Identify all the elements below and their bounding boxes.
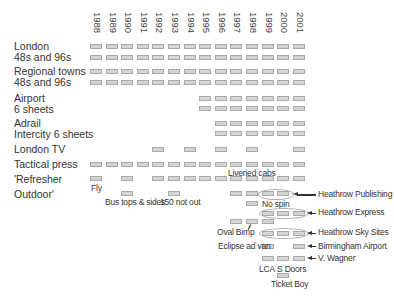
bar-v-wagner: [277, 256, 289, 261]
timeline-bar: [277, 121, 289, 126]
timeline-bar: [293, 96, 305, 101]
year-label: 1989: [106, 12, 120, 46]
row-label-airport-sheets: 6 sheets: [14, 104, 54, 115]
ellipse-heathrow-sky-sites: [259, 228, 309, 239]
bar-oval-bimp: [262, 219, 274, 224]
row-label-refresher: 'Refresher: [14, 174, 62, 185]
timeline-bar: [215, 162, 227, 167]
timeline-bar: [199, 176, 211, 181]
timeline-bar: [184, 147, 196, 152]
year-label: 1988: [90, 12, 104, 46]
row-label-adrail-sheets: Intercity 6 sheets: [14, 129, 93, 140]
annotation-bus-tops: Bus tops & sides: [105, 197, 165, 207]
timeline-bar: [168, 191, 180, 196]
bar-oval-bimp: [230, 219, 242, 224]
timeline-bar: [215, 80, 227, 85]
row-label-regional-sizes: 48s and 96s: [14, 77, 71, 88]
annotation-heathrow-publishing: Heathrow Publishing: [318, 189, 392, 199]
timeline-bar: [277, 131, 289, 136]
timeline-bar: [277, 96, 289, 101]
timeline-bar: [215, 55, 227, 60]
timeline-bar: [277, 176, 289, 181]
row-label-outdoor: Outdoor': [14, 189, 54, 200]
timeline-bar: [184, 162, 196, 167]
timeline-bar: [121, 191, 133, 196]
arrow-heathrow-sky-sites-icon: [311, 233, 316, 234]
timeline-bar: [90, 44, 102, 49]
timeline-bar: [121, 44, 133, 49]
annotation-lca: LCA: [259, 264, 275, 274]
timeline-bar: [152, 80, 164, 85]
timeline-bar: [184, 176, 196, 181]
arrow-birmingham-airport-icon: [311, 246, 316, 247]
timeline-bar: [152, 162, 164, 167]
annotation-heathrow-express: Heathrow Express: [318, 207, 384, 217]
timeline-bar: [293, 80, 305, 85]
timeline-bar: [215, 44, 227, 49]
timeline-bar: [106, 69, 118, 74]
bar-birmingham-airport: [293, 244, 305, 249]
timeline-bar: [293, 147, 305, 152]
timeline-bar: [293, 55, 305, 60]
timeline-bar: [246, 106, 258, 111]
year-label: 2000: [277, 12, 291, 46]
timeline-bar: [246, 131, 258, 136]
bar-no-spin: [246, 201, 258, 206]
row-label-london-tv: London TV: [14, 144, 65, 155]
timeline-bar: [121, 80, 133, 85]
timeline-bar: [137, 55, 149, 60]
timeline-bar: [262, 106, 274, 111]
timeline-bar: [262, 162, 274, 167]
timeline-bar: [184, 80, 196, 85]
timeline-bar: [277, 69, 289, 74]
timeline-bar: [246, 191, 258, 196]
timeline-bar: [246, 80, 258, 85]
timeline-bar: [121, 162, 133, 167]
bar-v-wagner: [293, 256, 305, 261]
timeline-bar: [246, 96, 258, 101]
annotation-heathrow-sky-sites: Heathrow Sky Sites: [318, 227, 389, 237]
timeline-bar: [277, 106, 289, 111]
timeline-bar: [230, 121, 242, 126]
timeline-bar: [90, 55, 102, 60]
timeline-bar: [262, 96, 274, 101]
timeline-bar: [106, 162, 118, 167]
timeline-bar: [293, 69, 305, 74]
timeline-bar: [152, 44, 164, 49]
year-label: 1998: [246, 12, 260, 46]
timeline-bar: [215, 69, 227, 74]
timeline-bar: [230, 44, 242, 49]
row-label-london-sizes: 48s and 96s: [14, 52, 71, 63]
ellipse-heathrow-express: [259, 208, 309, 219]
timeline-bar: [293, 121, 305, 126]
timeline-bar: [230, 69, 242, 74]
row-label-tactical: Tactical press: [14, 159, 78, 170]
arrow-heathrow-express-icon: [311, 213, 316, 214]
timeline-bar: [293, 106, 305, 111]
timeline-bar: [184, 44, 196, 49]
timeline-bar: [230, 96, 242, 101]
timeline-bar: [215, 96, 227, 101]
timeline-bar: [230, 162, 242, 167]
timeline-bar: [137, 69, 149, 74]
timeline-bar: [215, 176, 227, 181]
annotation-fly: Fly: [91, 183, 102, 193]
timeline-bar: [262, 55, 274, 60]
timeline-bar: [168, 55, 180, 60]
year-label: 1994: [184, 12, 198, 46]
annotation-v-wagner: V. Wagner: [318, 253, 355, 263]
timeline-bar: [293, 131, 305, 136]
timeline-bar: [230, 106, 242, 111]
annotation-150-not-out: 150 not out: [160, 197, 200, 207]
annotation-birmingham-airport: Birmingham Airport: [318, 241, 387, 251]
timeline-bar: [230, 131, 242, 136]
timeline-bar: [199, 106, 211, 111]
timeline-bar: [90, 176, 102, 181]
timeline-bar: [230, 80, 242, 85]
annotation-ticket-boy: Ticket Boy: [271, 279, 308, 289]
timeline-bar: [262, 131, 274, 136]
timeline-bar: [168, 162, 180, 167]
timeline-bar: [246, 69, 258, 74]
timeline-bar: [246, 121, 258, 126]
timeline-bar: [152, 176, 164, 181]
